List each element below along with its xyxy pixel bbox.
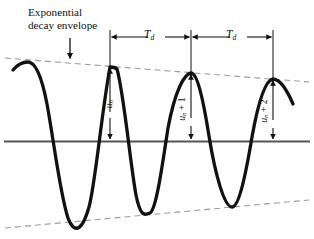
amplitude-label-un1: un + 1 <box>177 86 189 132</box>
upper-decay-envelope-line <box>5 58 309 82</box>
period-label-1: Td <box>144 28 154 42</box>
period-label-2-sub: d <box>232 33 236 42</box>
amplitude-label-un: un <box>104 87 116 121</box>
amplitude-label-un-base: u <box>103 104 114 109</box>
amplitude-label-un1-base: u <box>176 116 187 121</box>
envelope-caption: Exponential decay envelope <box>28 6 97 31</box>
damped-oscillation-curve <box>13 62 293 228</box>
amplitude-label-un2: un + 2 <box>259 88 271 134</box>
period-label-2: Td <box>226 28 236 42</box>
envelope-caption-line2: decay envelope <box>28 19 97 32</box>
amplitude-label-un2-inc: 2 <box>258 100 269 105</box>
envelope-caption-line1: Exponential <box>28 6 82 18</box>
amplitude-label-un1-sub: n <box>180 113 188 117</box>
amplitude-label-un2-base: u <box>258 118 269 123</box>
period-label-1-sub: d <box>150 33 154 42</box>
amplitude-label-un2-sub: n <box>262 115 270 119</box>
amplitude-label-un1-op: + <box>176 102 187 112</box>
lower-decay-envelope-line <box>5 200 309 228</box>
amplitude-label-un2-op: + <box>258 104 269 114</box>
figure-canvas: Exponential decay envelope Td Td un un +… <box>0 0 314 239</box>
amplitude-label-un1-inc: 1 <box>176 98 187 103</box>
amplitude-label-un-sub: n <box>107 100 115 104</box>
